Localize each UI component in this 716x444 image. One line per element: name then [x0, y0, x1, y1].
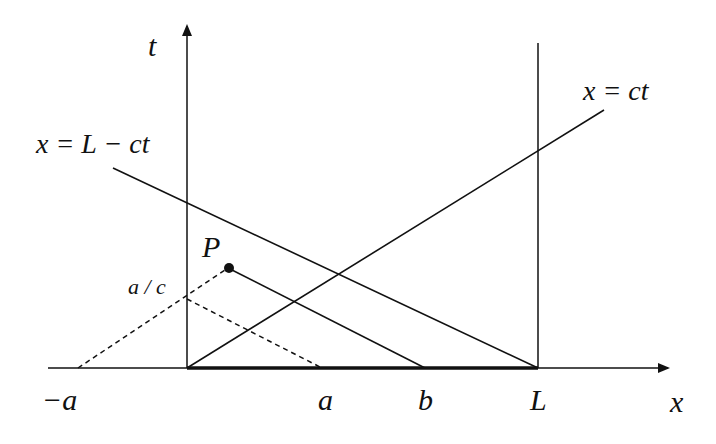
label-a-over-c: a / c: [128, 274, 166, 299]
dashed-ac-to-a: [187, 299, 322, 368]
tick-label-b: b: [418, 383, 433, 416]
point-P: [224, 263, 234, 273]
spacetime-diagram: t x x = L − ct x = ct P a / c −a a b L: [0, 0, 716, 444]
label-x-equals-L-minus-ct: x = L − ct: [35, 128, 151, 159]
label-x-equals-ct: x = ct: [582, 75, 650, 106]
label-P: P: [201, 230, 220, 263]
t-axis-label: t: [148, 29, 157, 62]
x-axis-label: x: [669, 385, 684, 418]
tick-label-neg-a: −a: [42, 383, 77, 416]
line-P-to-b: [228, 268, 425, 368]
tick-label-L: L: [529, 383, 547, 416]
diagram-svg: t x x = L − ct x = ct P a / c −a a b L: [0, 0, 716, 444]
line-x-equals-ct: [187, 110, 604, 368]
line-x-equals-L-minus-ct: [113, 168, 538, 368]
tick-label-a: a: [318, 383, 333, 416]
